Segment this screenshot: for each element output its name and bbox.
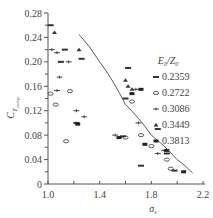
legend-entry: 0.3813	[154, 135, 190, 146]
y-tick-label: 0.16	[25, 81, 43, 92]
x-tick-label: 1.8	[145, 189, 158, 200]
marker-circle	[129, 100, 134, 103]
marker-triangle	[123, 78, 128, 82]
marker-filled-dash	[155, 128, 161, 130]
legend-entry: 0.3086	[153, 103, 190, 114]
y-tick-label: 0	[37, 179, 42, 190]
y-tick-label: 0.24	[25, 32, 43, 43]
marker-filled-dash	[123, 98, 129, 100]
y-axis-title: CTcomp	[5, 97, 20, 119]
marker-filled-dash	[164, 152, 170, 154]
marker-circle	[63, 140, 68, 143]
legend-label: 0.3086	[162, 103, 190, 114]
y-tick-label: 0.20	[25, 56, 43, 67]
marker-square	[129, 92, 134, 95]
marker-circle	[153, 91, 158, 94]
marker-plus	[57, 76, 63, 79]
x-tick-labels: 1.01.41.82.2	[42, 189, 210, 200]
marker-square	[139, 88, 144, 91]
marker-circle	[53, 103, 58, 106]
marker-triangle	[126, 84, 131, 88]
marker-plus	[66, 60, 72, 63]
marker-filled-dash	[58, 61, 64, 63]
svg-text:CTcomp: CTcomp	[5, 97, 20, 119]
x-axis-title: σs	[149, 203, 157, 215]
series-0.3086	[49, 48, 167, 155]
y-tick-label: 0.04	[25, 154, 43, 165]
y-tick-label: 0.08	[25, 130, 43, 141]
marker-filled-dash	[125, 67, 131, 69]
marker-triangle	[52, 31, 57, 35]
marker-circle	[168, 167, 173, 170]
marker-filled-dash	[48, 24, 54, 26]
marker-plus	[73, 109, 79, 112]
x-tick-label: 1.0	[42, 189, 55, 200]
marker-filled-dash	[79, 58, 85, 60]
series-0.2359	[48, 24, 178, 171]
marker-plus	[155, 152, 161, 155]
legend-label: 0.2722	[162, 87, 190, 98]
marker-plus	[49, 48, 55, 51]
legend: E0/Z0 0.23590.27220.30860.34490.3813	[153, 55, 190, 146]
marker-square	[75, 123, 80, 126]
marker-circle	[164, 158, 169, 161]
legend-entry: 0.2722	[153, 87, 189, 98]
marker-square	[154, 140, 159, 143]
y-tick-labels: 00.040.080.120.160.200.240.28	[25, 8, 43, 190]
y-tick-label: 0.28	[25, 8, 43, 19]
marker-triangle	[154, 123, 159, 127]
marker-triangle	[77, 48, 82, 52]
marker-filled-dash	[153, 76, 159, 78]
marker-filled-dash	[62, 49, 68, 51]
legend-label: 0.3449	[162, 119, 190, 130]
marker-plus	[135, 121, 141, 124]
series-0.2722	[48, 90, 173, 171]
marker-plus	[54, 89, 60, 92]
marker-plus	[153, 108, 159, 111]
marker-square	[117, 136, 122, 139]
legend-entry: 0.2359	[153, 71, 190, 82]
marker-plus	[81, 115, 87, 118]
chart: 00.040.080.120.160.200.240.28 1.01.41.82…	[0, 0, 213, 218]
marker-square	[142, 143, 147, 146]
y-tick-label: 0.12	[25, 105, 43, 116]
marker-plus	[54, 51, 60, 54]
marker-circle	[48, 92, 53, 95]
data-points	[48, 24, 187, 173]
marker-filled-dash	[138, 165, 144, 167]
legend-title: E0/Z0	[157, 55, 178, 67]
x-tick-label: 2.2	[197, 189, 210, 200]
marker-circle	[67, 90, 72, 93]
marker-circle	[138, 134, 143, 137]
legend-label: 0.2359	[162, 71, 190, 82]
marker-square	[181, 170, 186, 173]
marker-circle	[149, 145, 154, 148]
legend-label: 0.3813	[162, 135, 190, 146]
series-0.3449	[52, 31, 135, 91]
x-tick-label: 1.4	[93, 189, 106, 200]
